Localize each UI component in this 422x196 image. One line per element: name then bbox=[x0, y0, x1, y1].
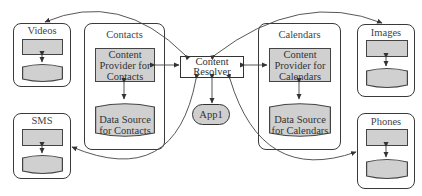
images-datasource-cylinder bbox=[366, 67, 408, 89]
contacts-provider-line1: Content bbox=[108, 49, 141, 60]
phones-title: Phones bbox=[358, 116, 414, 127]
calendars-provider-line2: Provider for bbox=[274, 60, 325, 71]
images-provider-box bbox=[366, 40, 408, 57]
contacts-title: Contacts bbox=[85, 29, 164, 40]
phones-datasource-cylinder bbox=[366, 158, 408, 180]
calendars-content-provider: Content Provider for Calendars bbox=[269, 48, 331, 82]
calendars-title: Calendars bbox=[259, 29, 340, 40]
calendars-source-line2: for Calendars bbox=[269, 125, 331, 136]
phones-group: Phones bbox=[357, 113, 415, 189]
videos-title: Videos bbox=[14, 25, 70, 36]
calendars-provider-line3: Calendars bbox=[279, 71, 321, 82]
app1-node: App1 bbox=[192, 104, 230, 125]
calendars-source-line1: Data Source bbox=[269, 114, 331, 125]
contacts-source-label: Data Source for Contacts bbox=[95, 114, 155, 136]
phones-provider-box bbox=[366, 129, 408, 146]
resolver-line2: Resolver bbox=[193, 67, 230, 78]
sms-datasource-cylinder bbox=[22, 154, 63, 175]
calendars-group: Calendars Content Provider for Calendars… bbox=[258, 23, 341, 150]
calendars-source-label: Data Source for Calendars bbox=[269, 114, 331, 136]
images-group: Images bbox=[357, 24, 415, 97]
sms-provider-box bbox=[22, 129, 63, 146]
contacts-content-provider: Content Provider for Contacts bbox=[95, 48, 155, 82]
contacts-source-line1: Data Source bbox=[95, 114, 155, 125]
sms-group: SMS bbox=[13, 113, 71, 179]
calendars-provider-line1: Content bbox=[283, 49, 316, 60]
contacts-source-line2: for Contacts bbox=[95, 125, 155, 136]
content-resolver: Content Resolver bbox=[180, 56, 244, 78]
contacts-provider-line2: Provider for bbox=[99, 60, 150, 71]
videos-provider-box bbox=[22, 39, 63, 55]
sms-title: SMS bbox=[14, 115, 70, 126]
videos-group: Videos bbox=[13, 23, 71, 87]
images-title: Images bbox=[358, 27, 414, 38]
videos-datasource-cylinder bbox=[22, 63, 63, 83]
contacts-provider-line3: Contacts bbox=[107, 71, 144, 82]
contacts-group: Contacts Content Provider for Contacts D… bbox=[84, 23, 165, 150]
